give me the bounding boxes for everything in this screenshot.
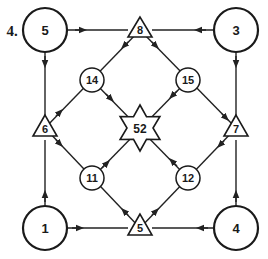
node-value: 1 [41,221,48,236]
node-value: 12 [182,172,194,184]
node-corner-top-right: 3 [214,8,258,52]
arrowhead-icon [222,114,226,118]
arrowhead-icon [56,140,60,144]
node-value: 14 [86,74,99,86]
node-value: 6 [42,123,48,135]
node-value: 3 [232,23,239,38]
arrowhead-icon [172,161,177,166]
node-inner-top-right: 15 [176,68,200,92]
node-inner-top-left: 14 [80,68,104,92]
node-value: 11 [86,172,98,184]
arrowhead-icon [124,211,128,215]
arrowhead-icon [152,42,156,46]
node-corner-bottom-left: 1 [23,206,67,250]
puzzle-number-label: 4. [6,23,18,39]
node-inner-bottom-right: 12 [176,166,200,190]
node-value: 15 [182,74,194,86]
node-value: 4 [232,221,240,236]
node-value: 5 [41,23,48,38]
node-triangle-right: 7 [224,115,248,136]
node-value: 52 [133,122,147,136]
node-triangle-bottom: 5 [128,214,152,235]
node-triangle-left: 6 [33,115,57,136]
node-corner-top-left: 5 [23,8,67,52]
node-triangle-top: 8 [128,17,152,37]
arrowhead-icon [102,163,107,168]
arrowhead-icon [172,91,177,96]
node-inner-bottom-left: 11 [80,166,104,190]
node-value: 8 [137,24,143,36]
node-value: 7 [233,123,239,135]
arrowhead-icon [106,94,111,99]
node-corner-bottom-right: 4 [214,206,258,250]
node-value: 5 [137,222,143,234]
arrow-network-puzzle: 4. 5 3 1 4 8 6 7 5 14 15 1 [0,0,268,259]
